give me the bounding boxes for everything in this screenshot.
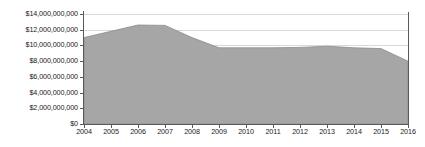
x-tick-label: 2005	[103, 128, 119, 135]
x-tick-label: 2008	[184, 128, 200, 135]
y-tick-label: $14,000,000,000	[26, 10, 78, 17]
x-tick-label: 2015	[373, 128, 389, 135]
y-tick-label: $8,000,000,000	[29, 58, 78, 65]
y-tick-label: $10,000,000,000	[26, 42, 78, 49]
y-tick-label: $6,000,000,000	[29, 73, 78, 80]
x-axis-label-group: 2004200520062007200820092010201120122013…	[84, 128, 408, 144]
y-axis-line	[83, 11, 84, 124]
x-tick-label: 2004	[76, 128, 92, 135]
right-axis-line	[408, 12, 409, 125]
y-tick-label: $2,000,000,000	[29, 105, 78, 112]
x-tick-label: 2006	[130, 128, 146, 135]
y-tick-mark	[80, 45, 84, 46]
area-chart: $14,000,000,000 $12,000,000,000 $10,000,…	[0, 0, 425, 147]
x-tick-label: 2007	[157, 128, 173, 135]
y-tick-mark	[80, 30, 84, 31]
area-series-value	[84, 14, 408, 124]
y-tick-label: $12,000,000,000	[26, 26, 78, 33]
x-tick-label: 2013	[319, 128, 335, 135]
y-tick-label: $4,000,000,000	[29, 89, 78, 96]
y-tick-mark	[80, 93, 84, 94]
y-tick-mark	[80, 77, 84, 78]
plot-area	[84, 14, 408, 124]
x-tick-label: 2014	[346, 128, 362, 135]
x-tick-label: 2010	[238, 128, 254, 135]
area-fill-path	[84, 25, 408, 124]
x-tick-label: 2016	[400, 128, 416, 135]
x-tick-label: 2012	[292, 128, 308, 135]
x-tick-label: 2009	[211, 128, 227, 135]
y-tick-mark	[80, 61, 84, 62]
y-tick-mark	[80, 14, 84, 15]
x-tick-label: 2011	[265, 128, 280, 135]
y-axis-label-group: $14,000,000,000 $12,000,000,000 $10,000,…	[0, 0, 82, 147]
y-tick-mark	[80, 108, 84, 109]
